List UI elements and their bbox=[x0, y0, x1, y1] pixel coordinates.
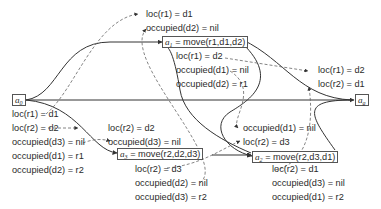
a3-effect: occupied(d2) = nil bbox=[135, 178, 208, 189]
a1-effect: occupied(d2) = r1 bbox=[176, 79, 248, 90]
order-a2-ag bbox=[315, 100, 352, 150]
a1-effect: occupied(d1) = nil bbox=[176, 65, 249, 76]
node-a1: a1 = move(r1,d1,d2) bbox=[162, 36, 248, 48]
node-ag: ag bbox=[355, 94, 369, 106]
a0-effect: occupied(d2) = r2 bbox=[12, 165, 84, 176]
node-a3: a3 = move(r2,d2,d3) bbox=[117, 148, 203, 160]
node-a0: a0 bbox=[12, 94, 26, 106]
node-a2: a2 = move(r2,d3,d1) bbox=[252, 151, 338, 163]
a0-effect: occupied(d3) = nil bbox=[12, 137, 85, 148]
a1-effect: loc(r1) = d2 bbox=[176, 51, 223, 62]
a3-precondition: loc(r2) = d2 bbox=[108, 123, 155, 134]
ag-precondition: loc(r1) = d2 bbox=[318, 65, 365, 76]
a0-effect: occupied(d1) = r1 bbox=[12, 151, 84, 162]
a3-effect: occupied(d3) = r2 bbox=[135, 192, 207, 203]
a2-effect: occupied(d1) = r2 bbox=[272, 192, 344, 203]
a3-precondition: occupied(d3) = nil bbox=[108, 137, 181, 148]
a0-effect: loc(r1) = d1 bbox=[12, 109, 59, 120]
a1-precondition: occupied(d2) = nil bbox=[146, 23, 219, 34]
ag-precondition: loc(r2) = d1 bbox=[318, 79, 365, 90]
a1-precondition: loc(r1) = d1 bbox=[146, 9, 193, 20]
a2-precondition: occupied(d1) = nil bbox=[243, 123, 316, 134]
a2-effect: occupied(d3) = nil bbox=[272, 178, 345, 189]
a0-effect: loc(r2) = d2 bbox=[12, 123, 59, 134]
a2-precondition: loc(r2) = d3 bbox=[243, 137, 290, 148]
a2-effect: loc(r2) = d1 bbox=[272, 164, 319, 175]
link-loc-r1-d1 bbox=[46, 14, 138, 114]
a3-effect: loc(r2) = d3 bbox=[135, 164, 182, 175]
order-a0-a1 bbox=[26, 42, 162, 100]
